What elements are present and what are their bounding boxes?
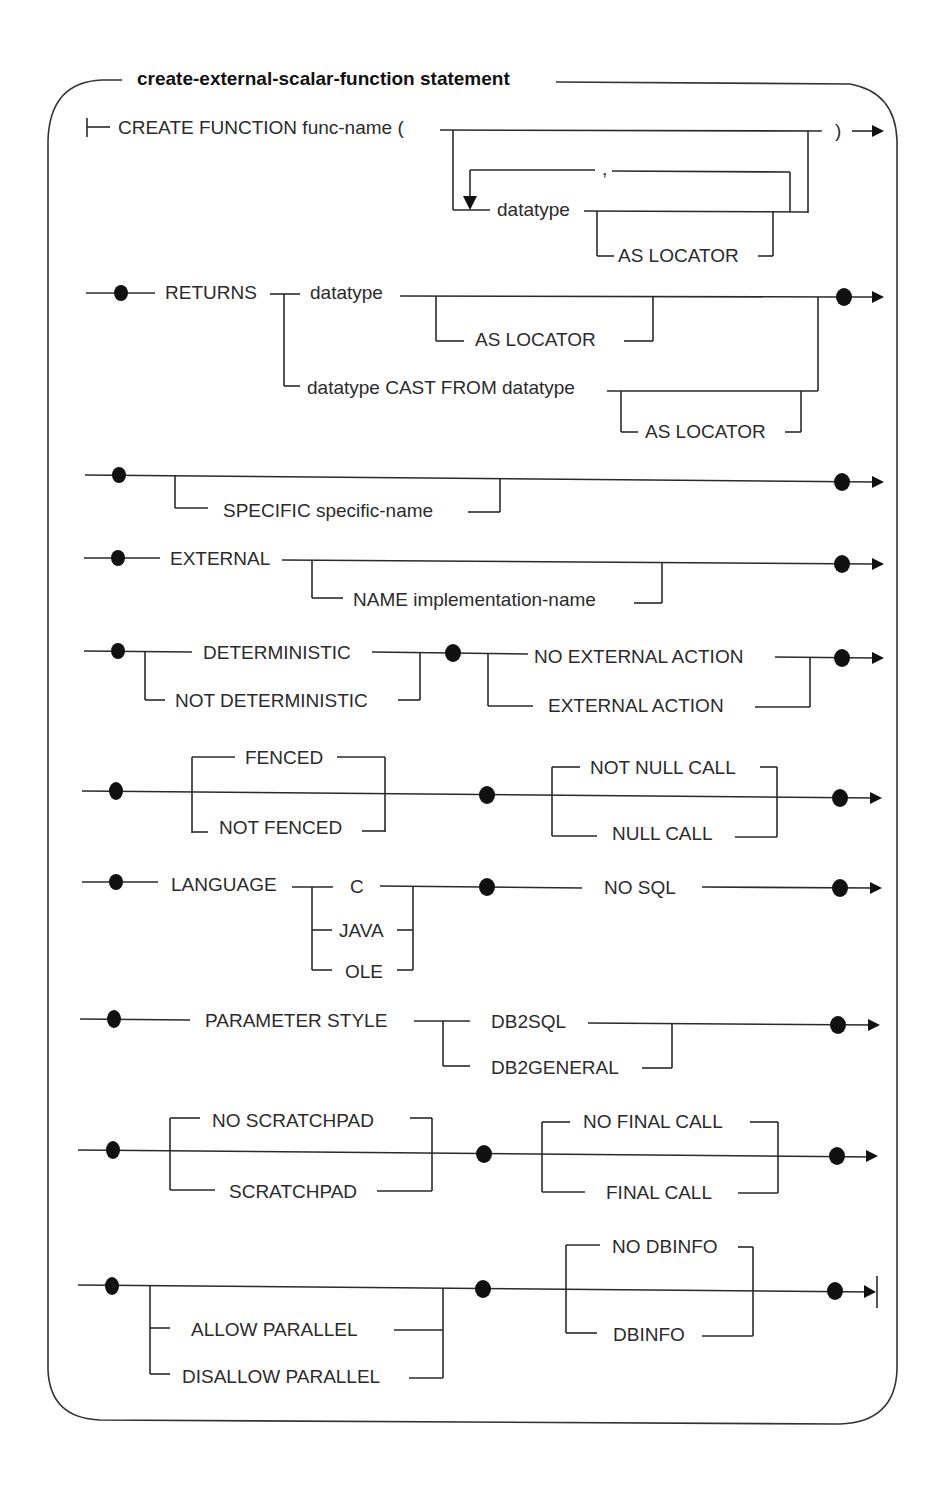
row-parameter-style: PARAMETER STYLE DB2SQL DB2GENERAL xyxy=(80,1010,880,1078)
db2general-option: DB2GENERAL xyxy=(491,1057,619,1078)
final-call-option: FINAL CALL xyxy=(606,1182,712,1203)
row-fenced: FENCED NOT FENCED NOT NULL CALL NULL CAL… xyxy=(82,747,882,844)
language-keyword: LANGUAGE xyxy=(171,874,277,895)
not-null-call-option: NOT NULL CALL xyxy=(590,757,736,778)
db2sql-option: DB2SQL xyxy=(491,1011,566,1032)
create-function-keyword: CREATE FUNCTION func-name ( xyxy=(118,117,404,138)
external-action-option: EXTERNAL ACTION xyxy=(548,695,724,716)
no-final-call-option: NO FINAL CALL xyxy=(583,1111,723,1132)
row-parallel: ALLOW PARALLEL DISALLOW PARALLEL NO DBIN… xyxy=(78,1236,877,1387)
language-java-option: JAVA xyxy=(339,920,384,941)
loop-arrow-icon xyxy=(463,196,477,210)
loop-separator: , xyxy=(602,158,607,179)
specific-name-option: SPECIFIC specific-name xyxy=(223,500,433,521)
deterministic-option: DETERMINISTIC xyxy=(203,642,351,663)
row-scratchpad: NO SCRATCHPAD SCRATCHPAD NO FINAL CALL F… xyxy=(78,1110,878,1203)
language-ole-option: OLE xyxy=(345,961,383,982)
end-arrow-icon xyxy=(864,1285,876,1298)
language-c-option: C xyxy=(350,876,364,897)
row-language: LANGUAGE C JAVA OLE NO SQL xyxy=(82,874,882,982)
disallow-parallel-option: DISALLOW PARALLEL xyxy=(182,1366,380,1387)
dbinfo-option: DBINFO xyxy=(613,1324,685,1345)
null-call-option: NULL CALL xyxy=(612,823,713,844)
scratchpad-option: SCRATCHPAD xyxy=(229,1181,357,1202)
no-sql-option: NO SQL xyxy=(604,877,676,898)
diagram-title: create-external-scalar-function statemen… xyxy=(137,68,510,89)
continue-arrow-icon xyxy=(872,125,884,137)
param-as-locator: AS LOCATOR xyxy=(618,245,739,266)
row-deterministic: DETERMINISTIC NOT DETERMINISTIC NO EXTER… xyxy=(84,642,884,716)
returns-keyword: RETURNS xyxy=(165,282,257,303)
row-create-function: CREATE FUNCTION func-name ( , datatype A… xyxy=(87,117,884,266)
fenced-option: FENCED xyxy=(245,747,323,768)
returns-as-locator: AS LOCATOR xyxy=(475,329,596,350)
row-specific: SPECIFIC specific-name xyxy=(85,467,884,521)
external-keyword: EXTERNAL xyxy=(170,548,270,569)
no-external-action-option: NO EXTERNAL ACTION xyxy=(534,646,743,667)
parameter-style-keyword: PARAMETER STYLE xyxy=(205,1010,387,1031)
not-fenced-option: NOT FENCED xyxy=(219,817,342,838)
row-returns: RETURNS datatype AS LOCATOR datatype CAS… xyxy=(86,282,884,442)
cast-as-locator: AS LOCATOR xyxy=(645,421,766,442)
row-external: EXTERNAL NAME implementation-name xyxy=(84,548,884,610)
returns-datatype: datatype xyxy=(310,282,383,303)
not-deterministic-option: NOT DETERMINISTIC xyxy=(175,690,368,711)
no-dbinfo-option: NO DBINFO xyxy=(612,1236,718,1257)
implementation-name-option: NAME implementation-name xyxy=(353,589,596,610)
allow-parallel-option: ALLOW PARALLEL xyxy=(191,1319,358,1340)
no-scratchpad-option: NO SCRATCHPAD xyxy=(212,1110,374,1131)
syntax-diagram: create-external-scalar-function statemen… xyxy=(0,0,949,1486)
close-paren: ) xyxy=(835,120,841,141)
returns-cast-from: datatype CAST FROM datatype xyxy=(307,377,575,398)
param-datatype: datatype xyxy=(497,199,570,220)
